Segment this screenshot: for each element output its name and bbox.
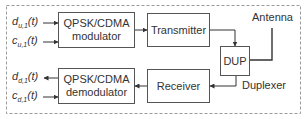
antenna-label: Antenna: [252, 11, 293, 23]
signal-c-u1: cu,1(t): [12, 34, 38, 48]
qpsk-cdma-modulator-block: QPSK/CDMA modulator: [58, 12, 135, 48]
receiver-block: Receiver: [147, 69, 210, 103]
arrow-dup-rx: [210, 76, 236, 86]
signal-d-d1: dd,1(t): [12, 70, 38, 84]
duplexer-label: Duplexer: [242, 79, 286, 91]
transmitter-block: Transmitter: [147, 13, 210, 47]
signal-c-d1: cd,1(t): [12, 89, 38, 103]
line-dup-antenna: [250, 28, 272, 60]
signal-d-u1: du,1(t): [12, 15, 38, 29]
arrow-tx-dup: [210, 30, 235, 46]
dup-block: DUP: [220, 46, 250, 76]
qpsk-cdma-demodulator-block: QPSK/CDMA demodulator: [58, 68, 135, 104]
